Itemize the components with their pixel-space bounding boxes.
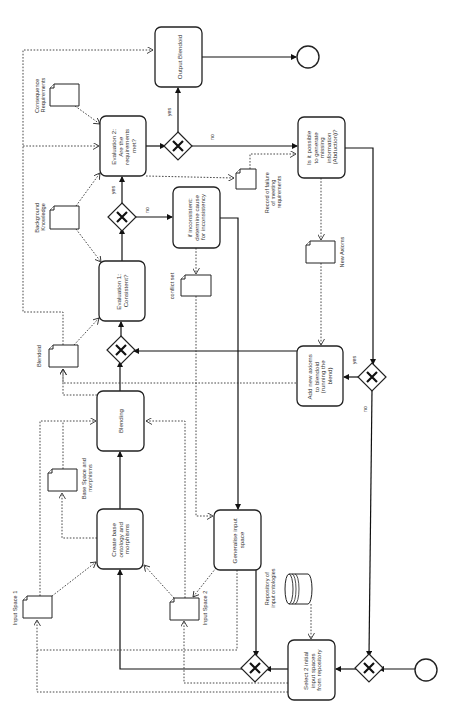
svg-text:Blending: Blending [117, 408, 124, 433]
svg-text:Output Blendoid: Output Blendoid [176, 34, 183, 79]
task-add-new-axioms[interactable]: Add new axioms to blendoid (running the … [297, 346, 343, 406]
svg-text:Create base ontology and: Create base ontology and morphisms [110, 520, 130, 557]
gateway-merge-blend[interactable] [107, 336, 135, 364]
task-generalise-input-space[interactable]: Generalise input space [214, 510, 261, 570]
database-icon [285, 574, 312, 604]
label-eval2-yes: yes [166, 107, 172, 116]
svg-text:Background Knowledge: Background Knowledge [34, 201, 46, 232]
label-eval1-no: no [144, 207, 150, 213]
gateway-evaluation-2[interactable] [164, 132, 192, 160]
label-eval2-no: no [209, 134, 215, 140]
svg-text:New Axioms: New Axioms [339, 236, 345, 267]
svg-text:Repository of input onto: Repository of input ontologies [264, 568, 276, 607]
task-select-input-spaces[interactable]: Select 2 initial input spaces from repos… [288, 640, 335, 700]
task-output-blendoid[interactable]: Output Blendoid [155, 27, 202, 87]
svg-text:if inconsistent: determi: if inconsistent: determine cause for inc… [186, 193, 206, 241]
datastore-repository[interactable]: Repository of input ontologies [264, 568, 312, 607]
gateway-after-select[interactable] [241, 654, 269, 682]
task-evaluation-1[interactable]: Evaluation 1: Consistent? [99, 261, 145, 321]
doc-base-space-morphisms[interactable]: Base Space and morphisms [48, 457, 93, 500]
doc-new-axioms[interactable]: New Axioms [306, 236, 345, 267]
bpmn-diagram: Output Blendoid Evaluation 2: Are the re… [0, 0, 456, 716]
label-eval1-yes: yes [110, 185, 116, 194]
doc-input-space-2[interactable]: Input Space 2 [170, 591, 208, 626]
doc-background-knowledge[interactable]: Background Knowledge [34, 201, 79, 232]
gateway-start-merge[interactable] [355, 654, 383, 682]
svg-text:Record of failure of mee: Record of failure of meeting requirement… [264, 171, 282, 214]
svg-text:Input Space 2: Input Space 2 [202, 591, 208, 626]
doc-record-of-failure[interactable]: Record of failure of meeting requirement… [236, 169, 282, 213]
svg-text:Input Space 1: Input Space 1 [12, 591, 18, 626]
gateway-abduction[interactable] [358, 363, 386, 391]
task-blending[interactable]: Blending [97, 391, 144, 451]
svg-text:Blendoid: Blendoid [36, 345, 42, 367]
svg-text:conflict set: conflict set [169, 272, 175, 299]
task-determine-inconsistency[interactable]: if inconsistent: determine cause for inc… [173, 187, 220, 248]
start-event-icon[interactable] [415, 659, 437, 681]
svg-text:Consequence Requirements: Consequence Requirements [34, 77, 46, 113]
task-abduction[interactable]: Is it possible to generate missing infor… [298, 117, 345, 178]
svg-text:Evaluation 1: Consistent: Evaluation 1: Consistent? [115, 272, 129, 310]
doc-consequence-requirements[interactable]: Consequence Requirements [34, 77, 79, 113]
gateway-evaluation-1[interactable] [108, 203, 136, 231]
doc-conflict-set[interactable]: conflict set [169, 272, 211, 299]
label-abduction-no: no [362, 406, 368, 412]
svg-text:Base Space and morphisms: Base Space and morphisms [81, 457, 93, 500]
end-event-icon[interactable] [297, 46, 319, 68]
doc-input-space-1[interactable]: Input Space 1 [12, 591, 52, 626]
doc-blendoid[interactable]: Blendoid [36, 345, 78, 367]
task-evaluation-2[interactable]: Evaluation 2: Are the requirements met? [100, 116, 146, 176]
label-abduction-yes: yes [351, 355, 357, 364]
svg-text:Select 2 initial input s: Select 2 initial input spaces from repos… [302, 648, 322, 690]
task-create-base-ontology[interactable]: Create base ontology and morphisms [97, 509, 143, 569]
